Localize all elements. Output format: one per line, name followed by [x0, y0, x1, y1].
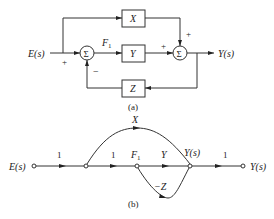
arrow-icon [162, 164, 169, 168]
ys-node-label: Y(s) [184, 147, 201, 159]
arrow-icon [116, 51, 122, 55]
feedback-line-to-z [145, 53, 197, 88]
node-out [241, 164, 245, 168]
diagram-canvas: E(s) + Σ F1 X Y Z + [0, 0, 274, 219]
block-z: Z [122, 80, 145, 97]
svg-text:X: X [129, 13, 137, 24]
output-label-b: Y(s) [250, 161, 267, 173]
sum2-plus-top-sign: + [186, 29, 191, 39]
output-label-a: Y(s) [218, 48, 235, 60]
gain-1b: 1 [111, 150, 116, 160]
sigma-symbol: Σ [177, 49, 182, 59]
node-ys [188, 164, 192, 168]
gain-1a: 1 [57, 150, 62, 160]
block-y: Y [122, 45, 145, 62]
arrow-icon [145, 86, 151, 90]
arrow-icon [167, 51, 173, 55]
sum1-plus-sign: + [62, 57, 67, 67]
arrow-icon [178, 40, 182, 46]
sum1-minus-sign: − [93, 66, 99, 77]
input-label-a: E(s) [27, 48, 45, 60]
svg-text:Z: Z [130, 83, 136, 94]
arrow-icon [215, 164, 222, 168]
input-label-b: E(s) [8, 161, 26, 173]
gain-negz: −Z [154, 181, 167, 192]
arrow-icon [116, 16, 122, 20]
arrow-icon [85, 60, 89, 66]
signal-flow-graph-b: E(s) 1 1 Y 1 X −Z F1 Y(s) Y(s) (b) [8, 114, 267, 209]
summing-junction-1: Σ [80, 46, 94, 60]
node-f1 [135, 164, 139, 168]
gain-y: Y [161, 149, 168, 160]
feedforward-line-to-x [63, 18, 122, 53]
arrow-icon [159, 194, 166, 198]
sum2-plus-left-sign: + [161, 41, 166, 51]
node-e [32, 164, 36, 168]
arrow-icon [208, 51, 214, 55]
block-x: X [122, 10, 145, 27]
arrow-icon [74, 51, 80, 55]
arrow-icon [110, 164, 117, 168]
block-diagram-a: E(s) + Σ F1 X Y Z + [27, 10, 235, 112]
gain-1c: 1 [223, 150, 228, 160]
f1-node-label: F1 [130, 149, 141, 162]
arrow-icon [133, 126, 140, 130]
caption-a: (a) [128, 102, 138, 112]
summing-junction-2: Σ [173, 46, 187, 60]
caption-b: (b) [128, 199, 139, 209]
gain-x: X [131, 114, 139, 125]
f1-label: F1 [101, 37, 112, 50]
arrow-icon [59, 164, 66, 168]
sigma-symbol: Σ [84, 49, 89, 59]
node-n1 [84, 164, 88, 168]
